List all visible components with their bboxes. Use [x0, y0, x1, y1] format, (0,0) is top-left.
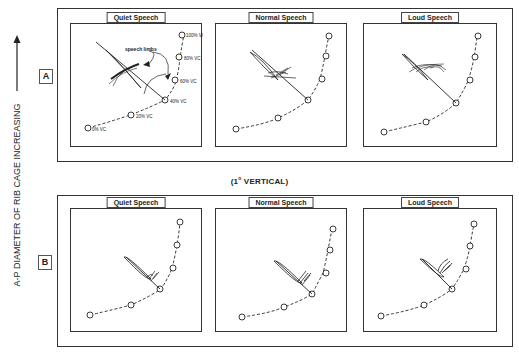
middle-caption: (1o VERTICAL)	[0, 175, 519, 186]
svg-text:100% VC: 100% VC	[186, 33, 203, 38]
panel-title: Quiet Speech	[107, 12, 166, 23]
arrow-up-icon	[14, 35, 21, 43]
panel-title: Loud Speech	[401, 12, 459, 23]
y-axis-text: A-P DIAMETER OF RIB CAGE INCREASING	[12, 104, 22, 287]
relaxation-plot	[71, 209, 203, 333]
svg-text:60% VC: 60% VC	[180, 79, 197, 84]
svg-text:0% VC: 0% VC	[92, 127, 107, 132]
arrow-icon	[143, 61, 150, 67]
svg-text:80% VC: 80% VC	[184, 56, 201, 61]
panel-title: Normal Speech	[249, 12, 314, 23]
row-tag-a: A	[39, 69, 53, 84]
panel-a-loud: Loud Speech	[363, 23, 497, 147]
panel-a-normal: Normal Speech	[215, 23, 347, 147]
svg-text:20% VC: 20% VC	[136, 114, 153, 119]
speech-limbs-annotation: speech limbs	[125, 46, 157, 52]
svg-text:40% VC: 40% VC	[170, 99, 187, 104]
relaxation-plot	[364, 209, 498, 333]
relaxation-plot	[216, 209, 348, 333]
relaxation-plot	[216, 24, 348, 148]
panel-title: Loud Speech	[401, 197, 459, 208]
relaxation-plot: 0% VC 20% VC 40% VC 60% VC 80% VC 100% V…	[71, 24, 203, 148]
panel-title: Quiet Speech	[107, 197, 166, 208]
panel-b-normal: Normal Speech	[215, 208, 347, 332]
panel-b-loud: Loud Speech	[363, 208, 497, 332]
panel-b-quiet: Quiet Speech	[70, 208, 202, 332]
row-tag-b: B	[38, 255, 52, 270]
relaxation-plot	[364, 24, 498, 148]
panel-a-quiet: Quiet Speech 0% VC 20% VC 40% VC 60% VC …	[70, 23, 202, 147]
panel-title: Normal Speech	[249, 197, 314, 208]
